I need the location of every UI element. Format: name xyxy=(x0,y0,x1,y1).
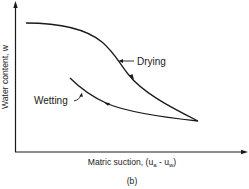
wetting-leader-arrow-icon xyxy=(79,93,83,97)
wetting-direction-arrow-icon xyxy=(104,103,110,106)
x-axis-label: Matric suction, (ua - uw) xyxy=(88,157,177,168)
x-axis-arrow-icon xyxy=(241,150,248,154)
x-axis xyxy=(15,150,248,154)
soil-water-characteristic-figure: Drying Wetting Water content, w Matric s… xyxy=(0,0,249,189)
y-axis xyxy=(13,1,17,152)
wetting-annotation: Wetting xyxy=(34,93,83,107)
figure-caption: (b) xyxy=(127,176,138,186)
drying-curve xyxy=(26,23,198,121)
wetting-curve xyxy=(70,78,198,121)
chart-canvas: Drying Wetting Water content, w Matric s… xyxy=(0,0,249,189)
y-axis-label: Water content, w xyxy=(0,44,10,109)
wetting-label: Wetting xyxy=(34,95,68,106)
y-axis-arrow-icon xyxy=(13,1,17,8)
drying-label: Drying xyxy=(137,56,166,67)
drying-annotation: Drying xyxy=(119,56,166,67)
